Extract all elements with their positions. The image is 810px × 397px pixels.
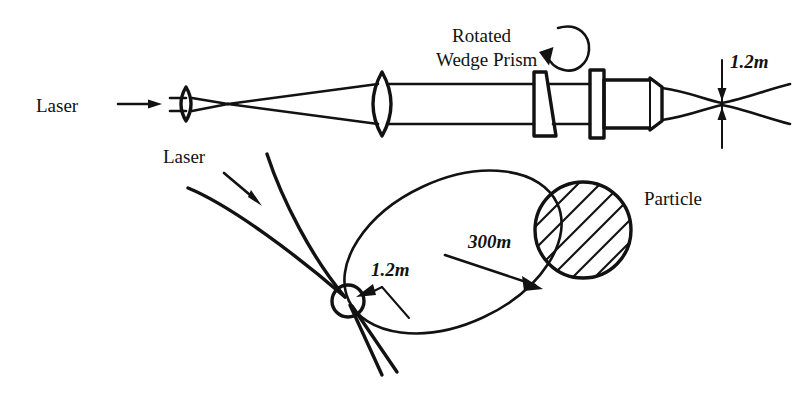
wedge-prism xyxy=(534,72,556,136)
laser-ray-left xyxy=(188,188,345,297)
laser-ray-upper xyxy=(267,154,345,297)
figure-svg: Laser xyxy=(0,0,810,397)
top-diagram: Laser xyxy=(36,25,790,148)
figure-root: Laser xyxy=(0,0,810,397)
rotation-arrow-icon xyxy=(539,27,589,71)
top-source-arrow xyxy=(118,100,162,109)
scan-ellipse xyxy=(318,138,587,366)
collimated-beam xyxy=(388,84,534,124)
bottom-laser-direction-arrow xyxy=(224,173,262,206)
top-waist-dimension xyxy=(718,60,727,148)
scan-diameter-leader xyxy=(445,255,543,291)
wedge-prism-label-line1: Rotated xyxy=(452,25,512,46)
input-beam-rays xyxy=(170,98,186,111)
flat-plate xyxy=(590,70,604,138)
bottom-laser-label: Laser xyxy=(163,146,206,167)
second-lens xyxy=(373,72,391,136)
output-waist-beam xyxy=(662,84,790,124)
wedge-prism-label-line2: Wedge Prism xyxy=(436,49,538,70)
top-laser-label: Laser xyxy=(36,95,79,116)
bottom-diagram: Laser 1. xyxy=(163,138,702,375)
scan-diameter-label: 300m xyxy=(467,231,511,252)
beam-between-lenses xyxy=(192,84,378,124)
particle-label: Particle xyxy=(644,188,702,209)
bottom-waist-label: 1.2m xyxy=(371,259,410,280)
top-waist-label: 1.2m xyxy=(730,51,769,72)
first-lens xyxy=(181,87,191,121)
telescope-tube xyxy=(604,78,662,130)
